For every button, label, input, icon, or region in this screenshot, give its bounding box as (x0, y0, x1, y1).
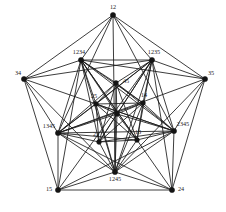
graph-canvas: 1234351524123412351345234512454525142313 (0, 0, 226, 212)
graph-vertex[interactable] (114, 81, 119, 86)
graph-vertex[interactable] (169, 187, 174, 192)
graph-edge (172, 131, 174, 190)
graph-vertex[interactable] (94, 102, 99, 107)
vertex-label: 23 (93, 130, 99, 137)
graph-edge (81, 15, 113, 60)
graph-vertex[interactable] (97, 140, 102, 145)
graph-edge (58, 60, 81, 133)
vertex-label: 1234 (73, 48, 85, 55)
vertex-label: 34 (15, 69, 21, 76)
graph-vertex[interactable] (202, 76, 207, 81)
graph-vertex[interactable] (78, 57, 83, 62)
graph-vertex[interactable] (55, 187, 60, 192)
graph-edge (96, 103, 143, 104)
graph-edge (152, 60, 205, 79)
graph-edge (58, 114, 117, 133)
edge-layer (24, 15, 205, 190)
graph-edge (113, 15, 205, 79)
graph-vertex[interactable] (115, 112, 120, 117)
vertex-label: 13 (135, 128, 141, 135)
graph-vertex[interactable] (21, 76, 26, 81)
graph-edge (81, 60, 205, 79)
graph-edge (115, 172, 172, 190)
graph-edge (58, 172, 115, 190)
graph-edge (24, 60, 81, 79)
graph-vertex[interactable] (141, 101, 146, 106)
vertex-label: 14 (141, 91, 147, 98)
graph-edge (117, 114, 174, 131)
graph-edge (115, 131, 174, 172)
graph-edge (113, 15, 152, 60)
graph-vertex[interactable] (55, 130, 60, 135)
graph-figure: 1234351524123412351345234512454525142313 (0, 0, 226, 212)
graph-vertex[interactable] (110, 12, 115, 17)
graph-edge (58, 60, 152, 190)
vertex-label: 1345 (43, 122, 55, 129)
vertex-label: 1245 (109, 175, 121, 182)
vertex-label: 35 (208, 69, 214, 76)
graph-vertex[interactable] (171, 128, 176, 133)
vertex-label: 1235 (148, 48, 160, 55)
vertex-label: 2345 (177, 120, 189, 127)
vertex-label: 45 (123, 77, 129, 84)
graph-edge (58, 104, 96, 133)
graph-edge (24, 15, 113, 79)
vertex-label: 24 (178, 185, 184, 192)
graph-vertex[interactable] (112, 169, 117, 174)
graph-edge (24, 79, 58, 190)
vertex-label: 15 (46, 185, 52, 192)
graph-vertex[interactable] (135, 138, 140, 143)
vertex-label: 25 (91, 92, 97, 99)
vertex-label: 12 (110, 3, 116, 10)
graph-vertex[interactable] (149, 57, 154, 62)
